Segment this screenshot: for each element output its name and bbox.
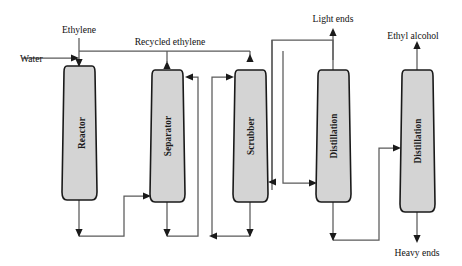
arrow-light-ends-out xyxy=(329,28,336,36)
arrow-scrubber-recycle-left xyxy=(209,232,217,239)
unit-scrubber-label: Scrubber xyxy=(246,117,256,155)
arrow-into-scrubber-upper-side xyxy=(226,73,234,80)
arrow-heavy-ends-out xyxy=(413,235,420,243)
flowsheet-canvas: Reactor Separator Scrubber Distillation … xyxy=(0,0,462,266)
stream-label-ethyl-alcohol: Ethyl alcohol xyxy=(387,30,439,41)
arrow-separator-overhead xyxy=(163,61,170,69)
unit-separator-label: Separator xyxy=(163,116,173,157)
process-flow-diagram: Reactor Separator Scrubber Distillation … xyxy=(0,0,462,266)
arrow-into-separator-upper-side xyxy=(185,73,193,80)
unit-reactor[interactable]: Reactor xyxy=(62,66,97,200)
stream-line-reactor-to-separator xyxy=(79,196,146,236)
stream-line-scrubber-side-feed xyxy=(272,40,274,182)
stream-label-recycled-ethylene: Recycled ethylene xyxy=(135,36,206,47)
unit-distillation-1[interactable]: Distillation xyxy=(316,70,351,202)
stream-line-scrubber-to-distillation1 xyxy=(283,51,311,183)
unit-distillation-2-label: Distillation xyxy=(413,118,423,164)
stream-label-water: Water xyxy=(20,53,43,64)
unit-distillation-1-label: Distillation xyxy=(329,113,339,159)
stream-label-heavy-ends: Heavy ends xyxy=(394,247,439,258)
unit-separator[interactable]: Separator xyxy=(150,70,185,202)
unit-reactor-label: Reactor xyxy=(77,117,87,149)
arrow-into-distillation2-side xyxy=(393,144,401,151)
unit-scrubber[interactable]: Scrubber xyxy=(233,70,268,202)
arrow-ethyl-alcohol-out xyxy=(413,41,420,49)
arrow-scrubber-overhead xyxy=(246,54,253,62)
stream-label-light-ends: Light ends xyxy=(313,13,354,24)
stream-label-ethylene: Ethylene xyxy=(62,24,96,35)
unit-distillation-2[interactable]: Distillation xyxy=(400,70,435,212)
